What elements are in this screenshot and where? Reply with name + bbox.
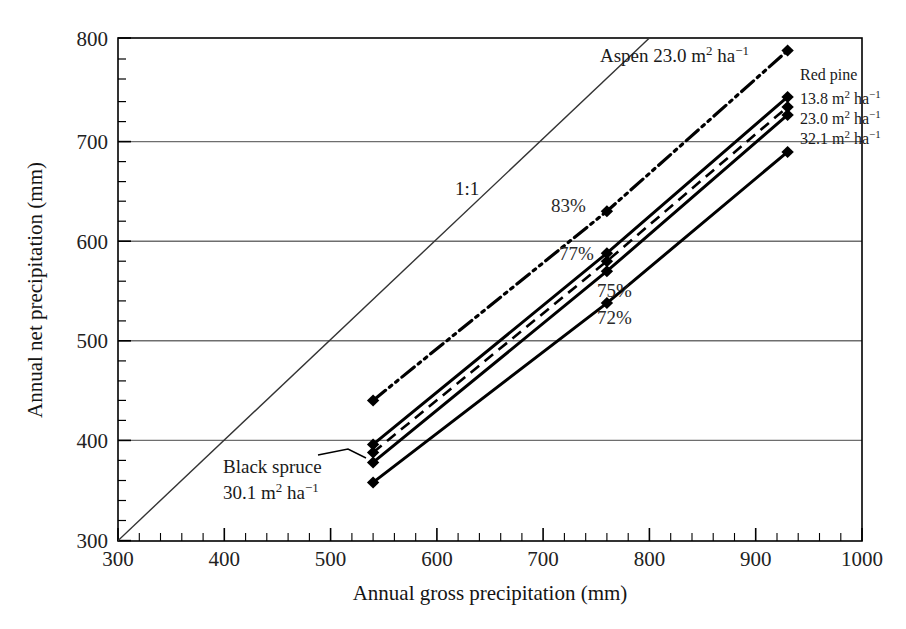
y-tick-label-700: 700 <box>77 130 109 154</box>
annotation-black-spruce-line1: Black spruce <box>223 456 322 477</box>
annotation-bs-sup2: −1 <box>305 480 319 495</box>
annotation-one-to-one-label: 1:1 <box>455 178 479 199</box>
annotation-pct-72: 72% <box>597 307 632 328</box>
x-tick-labels: 300 400 500 600 700 800 900 1000 <box>102 547 883 571</box>
y-tick-label-800: 800 <box>77 27 109 51</box>
legend-entry-13-8: 13.8 m2 ha−1 <box>800 88 881 107</box>
legend-entry-32-1-main: 32.1 m <box>800 130 845 147</box>
annotation-aspen-mid: ha <box>713 45 736 66</box>
legend-entry-13-8-sup2: −1 <box>869 88 881 100</box>
annotation-pct-77: 77% <box>559 243 594 264</box>
annotation-bs-main: 30.1 m <box>223 482 276 503</box>
legend-entry-23-0: 23.0 m2 ha−1 <box>800 108 881 127</box>
annotation-aspen-main: Aspen 23.0 m <box>600 45 706 66</box>
legend-entry-23-0-mid: ha <box>850 110 869 127</box>
x-tick-label-500: 500 <box>315 547 347 571</box>
x-tick-label-400: 400 <box>209 547 241 571</box>
legend-entry-23-0-main: 23.0 m <box>800 110 845 127</box>
legend-title: Red pine <box>800 66 857 84</box>
precipitation-scatter-chart: 300 400 500 600 700 800 300 400 500 600 … <box>0 0 906 629</box>
legend-entry-32-1: 32.1 m2 ha−1 <box>800 128 881 147</box>
x-tick-label-300: 300 <box>102 547 134 571</box>
annotation-aspen-sup2: −1 <box>735 43 749 58</box>
y-axis-title: Annual net precipitation (mm) <box>23 162 47 418</box>
legend-entry-32-1-mid: ha <box>850 130 869 147</box>
x-tick-label-1000: 1000 <box>841 547 883 571</box>
legend-entry-23-0-sup2: −1 <box>869 108 881 120</box>
x-tick-label-900: 900 <box>740 547 772 571</box>
figure-container: 300 400 500 600 700 800 300 400 500 600 … <box>0 0 906 629</box>
annotation-bs-mid: ha <box>282 482 305 503</box>
legend-entry-13-8-mid: ha <box>850 90 869 107</box>
y-tick-label-400: 400 <box>77 429 109 453</box>
annotation-pct-75: 75% <box>597 280 632 301</box>
x-tick-label-600: 600 <box>421 547 453 571</box>
y-tick-label-500: 500 <box>77 329 109 353</box>
annotation-aspen-label: Aspen 23.0 m2 ha−1 <box>600 43 749 67</box>
x-tick-label-700: 700 <box>527 547 559 571</box>
annotation-pct-83: 83% <box>551 195 586 216</box>
annotation-black-spruce-line2: 30.1 m2 ha−1 <box>223 480 319 504</box>
legend-entry-32-1-sup2: −1 <box>869 128 881 140</box>
y-tick-label-600: 600 <box>77 230 109 254</box>
x-tick-label-800: 800 <box>634 547 666 571</box>
legend-entry-13-8-main: 13.8 m <box>800 90 845 107</box>
y-tick-labels: 300 400 500 600 700 800 <box>77 27 109 553</box>
x-axis-title: Annual gross precipitation (mm) <box>353 581 628 605</box>
legend-red-pine: Red pine 13.8 m2 ha−1 23.0 m2 ha−1 32.1 … <box>800 66 881 147</box>
